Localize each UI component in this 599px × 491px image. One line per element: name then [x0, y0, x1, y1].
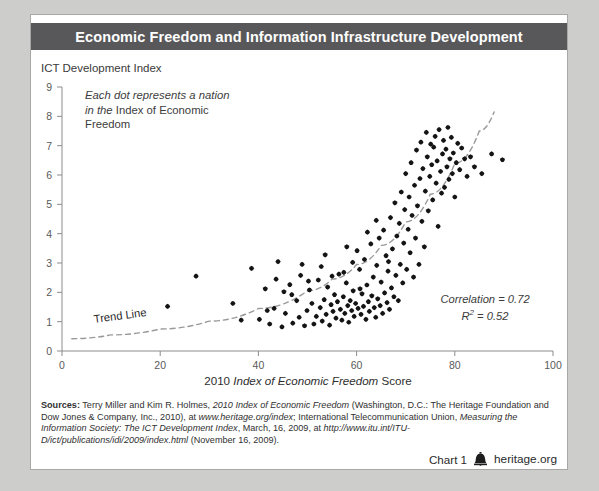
chart-number: Chart 1 — [429, 453, 467, 466]
page-title: Economic Freedom and Information Infrast… — [75, 29, 522, 45]
r-squared-value: R2 = 0.52 — [420, 306, 550, 323]
annotation-line-2-roman: Index of — [116, 104, 156, 116]
liberty-bell-icon — [474, 452, 487, 466]
chart-title-bar: Economic Freedom and Information Infrast… — [31, 23, 567, 50]
sources-text-3: ; International Telecommunication Union, — [293, 412, 460, 422]
annotation-correlation: Correlation = 0.72 R2 = 0.52 — [420, 292, 550, 323]
x-axis-title-score: Score — [378, 374, 412, 387]
sources-text-1: Terry Miller and Kim R. Holmes, — [80, 400, 213, 410]
chart-footer: Chart 1 heritage.org — [41, 452, 557, 466]
annotation-line-1: Each dot represents a — [85, 89, 196, 101]
sources-note: Sources: Terry Miller and Kim R. Holmes,… — [41, 400, 557, 446]
sources-italic-1: 2010 Index of Economic Freedom — [213, 400, 349, 410]
y-axis-title: ICT Development Index — [41, 62, 162, 74]
x-axis-title-year: 2010 — [204, 374, 233, 387]
heritage-site-label: heritage.org — [494, 452, 557, 466]
r-squared-number: = 0.52 — [474, 310, 509, 322]
r-squared-prefix: R — [461, 310, 469, 322]
x-axis-title-italic: Index of Economic Freedom — [233, 374, 378, 387]
x-axis-title: 2010 Index of Economic Freedom Score — [62, 374, 554, 387]
sources-text-5: (November 16, 2009). — [188, 435, 279, 445]
chart-page: Economic Freedom and Information Infrast… — [0, 0, 599, 491]
correlation-value: Correlation = 0.72 — [420, 292, 550, 306]
sources-italic-2: www.heritage.org/index — [199, 412, 294, 422]
sources-label: Sources: — [41, 400, 80, 410]
sources-text-4: , March, 16, 2009, at — [238, 423, 324, 433]
annotation-each-dot: Each dot represents a nation in the Inde… — [85, 88, 235, 132]
